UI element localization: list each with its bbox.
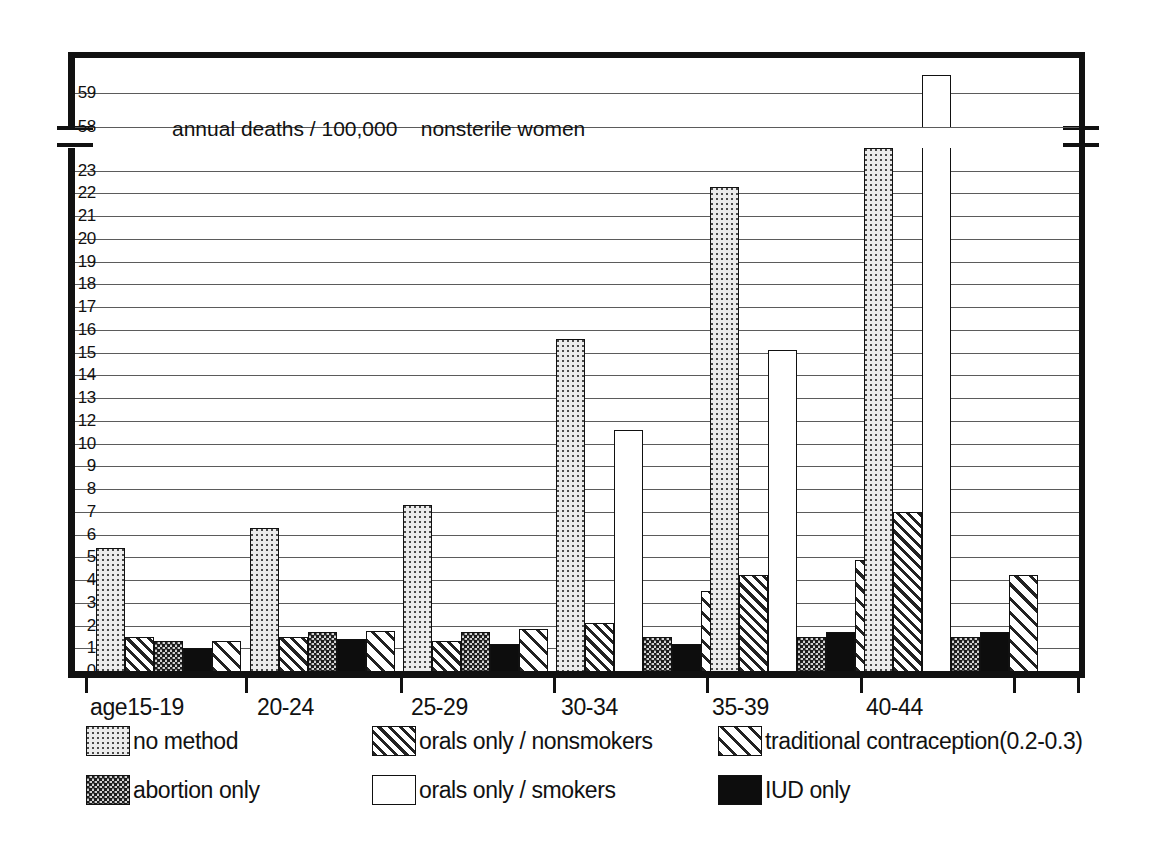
x-tick-label-group: 35-39	[712, 694, 769, 721]
bar-abortion-only-20-24	[308, 632, 337, 671]
x-axis-tick	[706, 678, 709, 693]
x-axis-tick	[400, 678, 403, 693]
bar-traditional-20-24	[366, 631, 395, 671]
bar-orals-nonsmokers-40-44	[893, 512, 922, 671]
legend-label: abortion only	[133, 777, 260, 804]
legend-swatch-icon	[718, 726, 762, 756]
legend-item[interactable]: IUD only	[718, 775, 850, 805]
bar-no-method-30-34	[556, 339, 585, 671]
x-tick-label-group: 40-44	[866, 694, 923, 721]
bar-orals-nonsmokers-30-34	[585, 623, 614, 671]
bar-traditional-40-44	[1009, 575, 1038, 671]
bar-abortion-only-15-19	[154, 641, 183, 671]
bar-iud-only-25-29	[490, 644, 519, 671]
legend-item[interactable]: abortion only	[86, 775, 260, 805]
x-axis-tick	[1077, 678, 1080, 693]
x-tick-label-group: age15-19	[90, 694, 184, 721]
bar-orals-smokers-30-34	[614, 430, 643, 671]
chart-legend: no methodorals only / nonsmokerstraditio…	[86, 726, 1086, 836]
legend-label: orals only / smokers	[419, 777, 616, 804]
x-axis-prefix-label: age	[90, 694, 127, 720]
chart-canvas: 0123456789101213141516171819202122235859…	[0, 0, 1155, 859]
bar-iud-only-20-24	[337, 639, 366, 671]
bar-no-method-15-19	[96, 548, 125, 671]
x-axis-tick	[85, 678, 88, 693]
legend-label: orals only / nonsmokers	[419, 728, 653, 755]
bar-abortion-only-25-29	[461, 632, 490, 671]
x-tick-label-group: 20-24	[257, 694, 314, 721]
bar-orals-smokers-40-44-lower	[922, 148, 951, 671]
bar-abortion-only-40-44	[951, 637, 980, 671]
bar-iud-only-15-19	[183, 648, 212, 671]
legend-swatch-icon	[86, 726, 130, 756]
x-axis-tick	[245, 678, 248, 693]
legend-item[interactable]: orals only / smokers	[372, 775, 616, 805]
bar-orals-smokers-40-44-upper	[922, 75, 951, 127]
legend-swatch-icon	[372, 775, 416, 805]
legend-label: IUD only	[765, 777, 850, 804]
x-tick-label: 15-19	[127, 694, 184, 720]
x-axis-tick	[553, 678, 556, 693]
x-axis-tick	[1013, 678, 1016, 693]
bar-no-method-25-29	[403, 505, 432, 671]
bar-orals-nonsmokers-20-24	[279, 637, 308, 671]
legend-item[interactable]: orals only / nonsmokers	[372, 726, 653, 756]
bar-no-method-35-39	[710, 187, 739, 671]
legend-swatch-icon	[86, 775, 130, 805]
legend-swatch-icon	[372, 726, 416, 756]
bar-iud-only-40-44	[980, 632, 1009, 671]
bar-abortion-only-35-39	[797, 637, 826, 671]
legend-item[interactable]: traditional contraception(0.2-0.3)	[718, 726, 1083, 756]
bar-iud-only-35-39	[826, 632, 855, 671]
legend-label: traditional contraception(0.2-0.3)	[765, 728, 1083, 755]
legend-item[interactable]: no method	[86, 726, 238, 756]
bar-orals-nonsmokers-25-29	[432, 641, 461, 671]
bar-orals-smokers-35-39	[768, 350, 797, 671]
x-tick-label-group: 25-29	[411, 694, 468, 721]
bar-orals-nonsmokers-35-39	[739, 575, 768, 671]
bar-iud-only-30-34	[672, 644, 701, 671]
bar-abortion-only-30-34	[643, 637, 672, 671]
bar-traditional-25-29	[519, 629, 548, 671]
legend-label: no method	[133, 728, 238, 755]
x-tick-label-group: 30-34	[561, 694, 618, 721]
bar-traditional-15-19	[212, 641, 241, 671]
legend-swatch-icon	[718, 775, 762, 805]
bar-no-method-20-24	[250, 528, 279, 671]
x-axis-baseline	[68, 671, 1085, 678]
x-axis-tick	[860, 678, 863, 693]
bar-orals-nonsmokers-15-19	[125, 637, 154, 671]
bar-no-method-40-44	[864, 148, 893, 671]
bar-layer	[0, 0, 1155, 671]
